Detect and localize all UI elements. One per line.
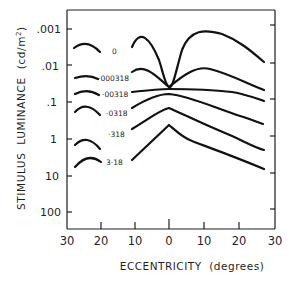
- svg-text:10: 10: [197, 234, 212, 248]
- svg-text:STIMULUS LUMINANCE(cd/m2): STIMULUS LUMINANCE(cd/m2): [15, 26, 27, 210]
- curve-left-0: [74, 44, 100, 52]
- curve-318b: [132, 125, 264, 169]
- main-curves: [132, 31, 264, 169]
- svg-text:10: 10: [128, 234, 143, 248]
- svg-text:30: 30: [60, 234, 75, 248]
- svg-text:1: 1: [50, 133, 57, 146]
- svg-text:·000318: ·000318: [98, 74, 129, 83]
- svg-text:.1: .1: [47, 96, 58, 109]
- curve-left-318b: [75, 158, 101, 167]
- left-segment-curves: [74, 44, 101, 167]
- x-axis-title: ECCENTRICITY (degrees): [120, 260, 264, 272]
- x-tick-labels: 30 20 10 0 10 20 30: [60, 234, 283, 248]
- curve-labels: 0 ·000318 ·00318 ·0318 ·318 3·18: [98, 47, 129, 167]
- curve-0318: [132, 94, 263, 124]
- svg-text:20: 20: [232, 234, 247, 248]
- svg-text:100: 100: [40, 206, 61, 219]
- y-ticks: [67, 25, 275, 212]
- curve-00318: [132, 89, 264, 101]
- svg-text:·0318: ·0318: [106, 109, 128, 118]
- svg-text:30: 30: [268, 234, 283, 248]
- curve-left-00318: [75, 91, 99, 95]
- curve-0: [132, 31, 264, 87]
- curve-000318: [132, 68, 264, 90]
- y-tick-labels: .001 .01 .1 1 10 100: [37, 23, 62, 219]
- svg-text:3·18: 3·18: [106, 158, 123, 167]
- luminance-eccentricity-chart: .001 .01 .1 1 10 100 30 20 10 0 10 20 30…: [0, 0, 292, 281]
- curve-left-0318: [75, 107, 100, 115]
- svg-text:.001: .001: [37, 23, 62, 36]
- y-axis-title: STIMULUS LUMINANCE(cd/m2): [15, 26, 27, 210]
- svg-text:.01: .01: [42, 60, 60, 73]
- curve-left-000318: [75, 76, 98, 79]
- svg-text:·318: ·318: [108, 130, 125, 139]
- svg-text:0: 0: [165, 234, 172, 248]
- curve-left-318: [75, 140, 100, 149]
- plot-frame: [67, 10, 275, 229]
- x-ticks: [101, 219, 239, 229]
- svg-text:0: 0: [112, 47, 117, 56]
- svg-text:20: 20: [94, 234, 109, 248]
- svg-text:10: 10: [45, 170, 59, 183]
- svg-text:·00318: ·00318: [102, 90, 128, 99]
